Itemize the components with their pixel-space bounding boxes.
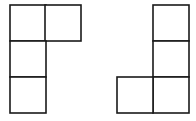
- square-cell: [45, 5, 81, 41]
- square-cell: [153, 77, 189, 113]
- square-cell: [153, 41, 189, 77]
- tetromino-diagram: [0, 0, 196, 121]
- square-cell: [10, 5, 46, 41]
- square-cell: [10, 77, 46, 113]
- right-j-tetromino: [117, 5, 189, 113]
- square-cell: [153, 5, 189, 41]
- square-cell: [117, 77, 153, 113]
- square-cell: [10, 41, 46, 77]
- left-l-tetromino: [10, 5, 81, 113]
